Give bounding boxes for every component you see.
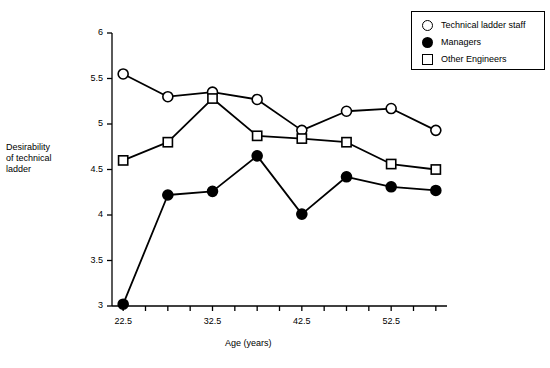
y-axis-tick-label: 5: [0, 118, 103, 128]
chart-figure: Desirability of technical ladder Age (ye…: [0, 0, 550, 368]
data-point-filled-circle: [386, 182, 396, 192]
x-axis-tick-label: 22.5: [93, 316, 153, 326]
data-point-open-square: [387, 159, 396, 168]
data-point-open-square: [208, 94, 217, 103]
series-managers: [118, 151, 441, 309]
series-line: [123, 74, 436, 130]
series-technical-ladder-staff: [118, 69, 441, 135]
y-axis-tick-label: 5.5: [0, 73, 103, 83]
data-point-open-square: [431, 165, 440, 174]
y-axis-title-line-2: of technical: [6, 153, 98, 164]
data-point-open-circle: [252, 94, 262, 104]
x-axis-tick-label: 32.5: [183, 316, 243, 326]
data-point-filled-circle: [252, 151, 262, 161]
data-point-filled-circle: [431, 185, 441, 195]
legend-label-other-engineers: Other Engineers: [441, 54, 507, 64]
data-point-open-circle: [163, 92, 173, 102]
data-point-open-square: [297, 134, 306, 143]
data-point-open-square: [163, 138, 172, 147]
open-circle-marker-icon: [422, 20, 433, 31]
y-axis-tick-label: 3: [0, 300, 103, 310]
legend-item-technical-ladder-staff: Technical ladder staff: [422, 18, 525, 32]
data-point-open-circle: [431, 125, 441, 135]
legend-label-managers: Managers: [441, 37, 481, 47]
y-axis-tick-label: 3.5: [0, 255, 103, 265]
data-point-filled-circle: [118, 299, 128, 309]
data-point-filled-circle: [297, 209, 307, 219]
open-square-marker-icon: [422, 54, 433, 65]
data-point-open-square: [342, 138, 351, 147]
y-axis-tick-label: 4: [0, 209, 103, 219]
x-axis-tick-label: 52.5: [361, 316, 421, 326]
legend-label-technical-ladder-staff: Technical ladder staff: [441, 20, 525, 30]
series-line: [123, 156, 436, 304]
legend-item-other-engineers: Other Engineers: [422, 52, 507, 66]
data-point-open-circle: [342, 106, 352, 116]
filled-circle-marker-icon: [422, 37, 433, 48]
data-point-filled-circle: [163, 190, 173, 200]
y-axis-tick-label: 4.5: [0, 164, 103, 174]
data-point-open-circle: [386, 104, 396, 114]
y-axis-title-line-1: Desirability: [6, 142, 98, 153]
chart-legend: Technical ladder staff Managers Other En…: [411, 11, 545, 70]
y-axis-tick-label: 6: [0, 27, 103, 37]
data-point-filled-circle: [342, 172, 352, 182]
x-axis-tick-label: 42.5: [272, 316, 332, 326]
data-point-open-circle: [118, 69, 128, 79]
data-point-filled-circle: [208, 186, 218, 196]
data-point-open-square: [253, 131, 262, 140]
x-axis-title: Age (years): [225, 338, 272, 348]
legend-item-managers: Managers: [422, 35, 481, 49]
data-point-open-square: [119, 156, 128, 165]
